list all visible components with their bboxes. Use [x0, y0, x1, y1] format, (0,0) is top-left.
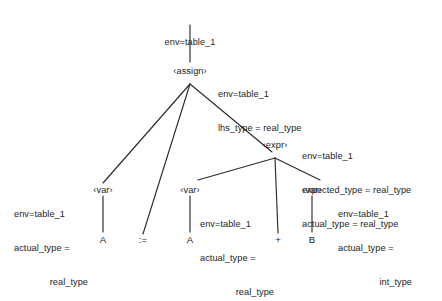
var-a-annotation-line-1: env=table_1: [200, 219, 274, 230]
leaf-assign-operator: :=: [139, 234, 147, 245]
root-annotation: env=table_1: [165, 14, 216, 71]
edge-expr-to-plus-op: [275, 158, 278, 233]
assign-annotation-line-1: env=table_1: [218, 89, 302, 100]
node-var-b-annotation: env=table_1 actual_type = int_type: [338, 186, 412, 301]
leaf-a-rhs: A: [187, 234, 193, 245]
node-var-lhs-label: ‹var›: [93, 185, 112, 196]
node-assign-annotation: env=table_1 lhs_type = real_type: [218, 66, 302, 157]
edge-expr-to-var-a: [198, 158, 275, 180]
var-lhs-annotation-line-2: actual_type =: [14, 243, 88, 254]
var-lhs-annotation-line-1: env=table_1: [14, 209, 88, 220]
leaf-a-lhs: A: [100, 234, 106, 245]
var-b-annotation-line-3: int_type: [338, 277, 412, 288]
leaf-plus-operator: +: [275, 234, 281, 245]
var-b-annotation-line-2: actual_type =: [338, 243, 412, 254]
node-var-b-label: ‹var›: [302, 185, 321, 196]
root-annotation-line-1: env=table_1: [165, 37, 216, 48]
node-assign-label: ‹assign›: [173, 66, 206, 77]
edge-assign-to-var-lhs: [103, 84, 190, 183]
node-var-a-annotation: env=table_1 actual_type = real_type: [200, 196, 274, 301]
edge-assign-to-assign-op: [143, 84, 190, 234]
expr-annotation-line-1: env=table_1: [302, 151, 411, 162]
assign-annotation-line-2: lhs_type = real_type: [218, 123, 302, 134]
var-a-annotation-line-3: real_type: [200, 287, 274, 298]
var-lhs-annotation-line-3: real_type: [14, 277, 88, 288]
leaf-b: B: [309, 234, 315, 245]
node-var-lhs-annotation: env=table_1 actual_type = real_type: [14, 186, 88, 301]
var-b-annotation-line-1: env=table_1: [338, 209, 412, 220]
node-var-a-label: ‹var›: [180, 185, 199, 196]
var-a-annotation-line-2: actual_type =: [200, 253, 274, 264]
node-expr-label: ‹expr›: [263, 140, 288, 151]
